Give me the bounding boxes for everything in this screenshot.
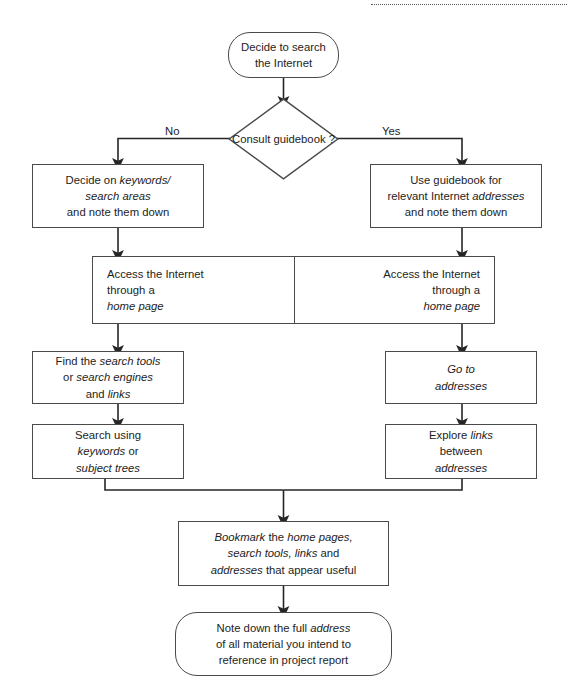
node-line: addresses that appear useful [211, 562, 357, 578]
node-use-guidebook[interactable]: Use guidebook for relevant Internet addr… [370, 164, 542, 228]
node-line: search tools, links and [228, 545, 340, 561]
node-line: search areas [85, 188, 150, 204]
node-line: Access the Internet [383, 266, 480, 282]
node-line: Search using [75, 427, 141, 443]
node-line: Explore links [429, 427, 493, 443]
node-line: relevant Internet addresses [388, 188, 525, 204]
node-line: Decide to search [241, 39, 326, 55]
decision-label: Consult guidebook ? [232, 131, 335, 147]
node-line: of all material you intend to [216, 636, 351, 652]
node-bookmark-useful[interactable]: Bookmark the home pages, search tools, l… [178, 521, 389, 586]
branch-label-no: No [165, 125, 179, 137]
node-line: addresses [435, 378, 487, 394]
node-line: Bookmark the home pages, [214, 529, 352, 545]
node-decide-to-search[interactable]: Decide to search the Internet [228, 32, 339, 78]
node-line: Find the search tools [56, 353, 161, 369]
node-line: subject trees [76, 460, 140, 476]
node-line: the Internet [255, 55, 312, 71]
branch-label-yes: Yes [382, 125, 400, 137]
flowchart-canvas: Decide to search the Internet Consult gu… [0, 0, 567, 693]
node-explore-links[interactable]: Explore links between addresses [385, 424, 537, 479]
node-consult-guidebook-decision[interactable]: Consult guidebook ? [228, 98, 339, 180]
edge-merge-right [284, 479, 463, 490]
node-line: Note down the full address [217, 620, 351, 636]
node-note-down-address[interactable]: Note down the full address of all materi… [175, 612, 392, 676]
node-search-using-keywords[interactable]: Search using keywords or subject trees [32, 424, 184, 479]
node-line: Consult [232, 133, 270, 145]
node-find-search-tools[interactable]: Find the search tools or search engines … [32, 351, 184, 404]
access-internet-left-half[interactable]: Access the Internet through a home page [93, 257, 294, 323]
node-line: ? [329, 133, 335, 145]
node-line: through a [432, 282, 480, 298]
node-line: and note them down [67, 204, 169, 220]
edge-merge-left [105, 479, 284, 490]
edge-no-branch [118, 139, 230, 165]
node-line: through a [107, 282, 155, 298]
node-line: reference in project report [219, 652, 348, 668]
dotted-rule-decoration [371, 4, 567, 5]
node-line: home page [423, 298, 480, 314]
node-line: addresses [435, 460, 487, 476]
node-line: home page [107, 298, 164, 314]
node-access-the-internet-band[interactable]: Access the Internet through a home page … [92, 256, 495, 324]
node-line: Decide on keywords/ [66, 172, 171, 188]
node-line: guidebook [273, 133, 325, 145]
node-line: and links [86, 386, 131, 402]
node-line: or search engines [63, 369, 153, 385]
node-line: Use guidebook for [410, 172, 502, 188]
node-decide-on-keywords[interactable]: Decide on keywords/ search areas and not… [32, 164, 204, 228]
node-line: Go to [447, 361, 475, 377]
node-go-to-addresses[interactable]: Go to addresses [385, 351, 537, 404]
node-line: keywords or [78, 443, 139, 459]
node-line: between [440, 443, 483, 459]
edge-yes-branch [337, 139, 462, 165]
node-line: Access the Internet [107, 266, 204, 282]
node-line: and note them down [405, 204, 507, 220]
access-internet-right-half[interactable]: Access the Internet through a home page [294, 257, 495, 323]
